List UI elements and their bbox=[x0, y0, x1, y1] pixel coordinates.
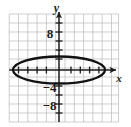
y-axis bbox=[56, 12, 62, 122]
y-tick-label-neg4: −4 bbox=[43, 80, 57, 95]
ellipse-graph-figure: 8 −4 −8 y x bbox=[0, 0, 131, 127]
y-tick-label-8: 8 bbox=[47, 26, 54, 41]
y-axis-label: y bbox=[52, 1, 60, 15]
grid-lines bbox=[9, 14, 118, 122]
y-tick-label-neg8: −8 bbox=[43, 98, 57, 113]
coordinate-plane-svg: 8 −4 −8 y x bbox=[0, 0, 131, 127]
x-axis-label: x bbox=[115, 72, 122, 84]
